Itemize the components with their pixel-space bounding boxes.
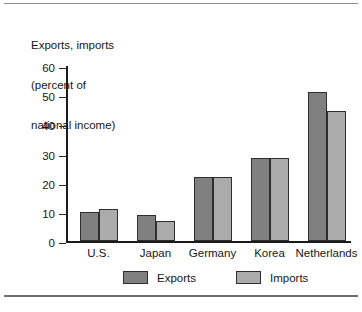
bar-exports-us	[80, 212, 99, 241]
y-tick-label: 0	[49, 237, 55, 249]
bar-chart-figure: Exports, imports (percent of national in…	[0, 0, 362, 312]
y-tick-label: 60	[42, 62, 55, 74]
legend-swatch-exports	[123, 271, 148, 284]
bar-group	[137, 66, 175, 241]
bar-exports-japan	[137, 215, 156, 241]
y-tick-mark	[59, 156, 66, 157]
y-tick-mark	[59, 97, 66, 98]
chart-legend: Exports Imports	[0, 271, 362, 289]
legend-item-imports: Imports	[236, 271, 308, 284]
plot-area: 0102030405060 U.S.JapanGermanyKoreaNethe…	[66, 66, 351, 243]
x-axis-label-germany: Germany	[189, 247, 236, 259]
y-tick-mark	[59, 214, 66, 215]
bar-imports-us	[99, 209, 118, 241]
bar-imports-netherlands	[327, 111, 346, 241]
x-axis-label-netherlands: Netherlands	[295, 247, 357, 259]
bar-group	[308, 66, 346, 241]
bar-imports-korea	[270, 158, 289, 241]
bar-group	[251, 66, 289, 241]
y-tick-label: 20	[42, 179, 55, 191]
y-tick-mark	[59, 126, 66, 127]
y-tick-mark	[59, 185, 66, 186]
bar-group	[194, 66, 232, 241]
y-tick-label: 50	[42, 91, 55, 103]
legend-swatch-imports	[236, 271, 261, 284]
y-tick-label: 10	[42, 208, 55, 220]
bar-exports-korea	[251, 158, 270, 241]
legend-label-imports: Imports	[270, 272, 308, 284]
y-tick-mark	[59, 243, 66, 244]
y-tick-mark	[59, 68, 66, 69]
x-axis-label-us: U.S.	[87, 247, 109, 259]
x-axis-label-korea: Korea	[254, 247, 285, 259]
bar-imports-germany	[213, 177, 232, 241]
bar-group	[80, 66, 118, 241]
top-divider	[4, 3, 358, 4]
y-tick-label: 30	[42, 150, 55, 162]
axis-title-line-1: Exports, imports	[31, 39, 115, 52]
y-tick-label: 40	[42, 120, 55, 132]
bar-imports-japan	[156, 221, 175, 241]
bar-exports-netherlands	[308, 92, 327, 241]
y-axis-line	[66, 66, 68, 243]
bottom-divider	[4, 295, 358, 297]
legend-item-exports: Exports	[123, 271, 196, 284]
x-axis-label-japan: Japan	[140, 247, 171, 259]
legend-label-exports: Exports	[157, 272, 196, 284]
x-axis-line	[66, 241, 351, 243]
bar-exports-germany	[194, 177, 213, 241]
